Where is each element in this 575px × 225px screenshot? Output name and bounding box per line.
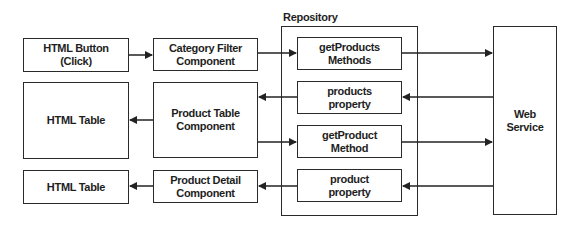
connector-arrows xyxy=(0,0,575,225)
